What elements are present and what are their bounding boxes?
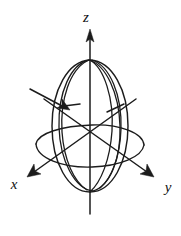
z-axis-group: [86, 29, 94, 214]
x-axis-label: x: [10, 176, 18, 192]
x-axis-negative-stub: [107, 104, 124, 112]
coordinate-sphere-diagram: z x y: [0, 0, 181, 236]
x-axis-arrowhead: [27, 164, 41, 177]
figure-container: z x y: [0, 0, 181, 236]
y-axis-group: [44, 99, 154, 177]
y-axis-label: y: [163, 179, 172, 195]
y-axis-arrowhead: [140, 164, 154, 177]
z-axis-label: z: [82, 9, 89, 25]
auxiliary-arrow-line: [30, 89, 64, 107]
